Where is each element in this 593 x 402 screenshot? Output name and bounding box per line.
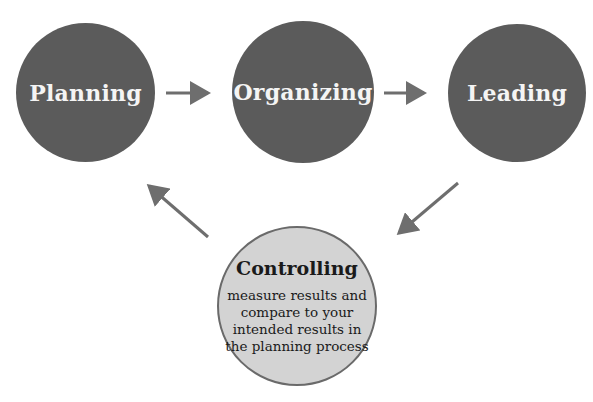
node-leading-label: Leading <box>467 80 567 106</box>
node-controlling-description: measure results and compare to your inte… <box>219 287 375 355</box>
node-organizing-label: Organizing <box>234 79 373 105</box>
node-leading: Leading <box>448 24 586 162</box>
node-organizing: Organizing <box>232 21 374 163</box>
arrow-leading-to-controlling <box>399 183 458 233</box>
node-controlling: Controlling measure results and compare … <box>217 226 377 386</box>
node-planning: Planning <box>16 23 155 162</box>
node-controlling-label: Controlling <box>236 257 358 279</box>
node-planning-label: Planning <box>29 80 141 106</box>
arrow-controlling-to-planning <box>149 186 208 237</box>
